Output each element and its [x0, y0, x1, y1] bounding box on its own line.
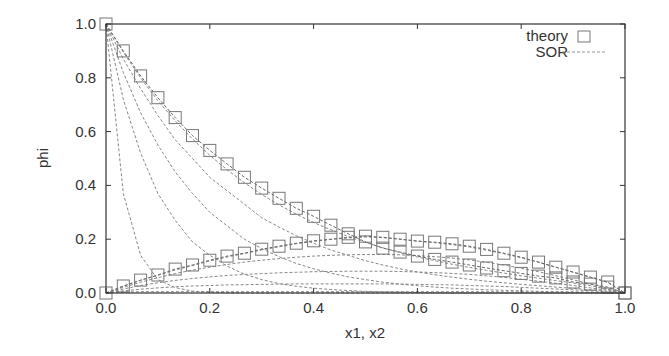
- theory-square-marker: [377, 231, 389, 243]
- y-tick-label: 0.4: [75, 176, 96, 193]
- theory-square-marker: [308, 235, 320, 247]
- theory-square-marker: [481, 243, 493, 255]
- theory-square-marker: [238, 247, 250, 259]
- y-tick-label: 1.0: [75, 15, 96, 32]
- y-tick-label: 0.6: [75, 123, 96, 140]
- theory-square-marker: [290, 202, 302, 214]
- theory-square-marker: [515, 251, 527, 263]
- x-tick-label: 0.0: [96, 299, 117, 316]
- y-tick-label: 0.8: [75, 69, 96, 86]
- sor-curve: [106, 24, 625, 293]
- theory-square-marker: [446, 238, 458, 250]
- sor-converged-curve: [106, 24, 625, 293]
- y-axis-title: phi: [34, 148, 51, 168]
- x-tick-label: 0.2: [199, 299, 220, 316]
- theory-square-marker: [515, 267, 527, 279]
- theory-square-marker: [481, 262, 493, 274]
- sor-curve: [106, 24, 625, 293]
- sor-curve: [106, 24, 625, 293]
- x-tick-label: 0.8: [511, 299, 532, 316]
- x-axis-title: x1, x2: [345, 324, 385, 341]
- sor-curve: [106, 24, 625, 293]
- theory-square-marker: [204, 144, 216, 156]
- x-tick-label: 0.4: [303, 299, 324, 316]
- sor-curve: [106, 24, 625, 293]
- theory-square-marker: [273, 240, 285, 252]
- legend: theory SOR: [526, 27, 607, 60]
- y-tick-label: 0.2: [75, 230, 96, 247]
- x-tick-label: 0.6: [407, 299, 428, 316]
- theory-square-marker: [602, 276, 614, 288]
- theory-square-marker: [152, 269, 164, 281]
- legend-square-marker-icon: [578, 31, 590, 42]
- sor-curve: [106, 255, 625, 294]
- theory-series-group: [100, 18, 631, 299]
- plot-frame: [106, 24, 625, 293]
- y-tick-label: 0.0: [75, 284, 96, 301]
- chart: 0.00.20.40.60.81.0 0.00.20.40.60.81.0 x1…: [0, 0, 669, 356]
- theory-square-marker: [238, 171, 250, 183]
- theory-square-marker: [273, 192, 285, 204]
- sor-series-group: [106, 24, 625, 293]
- theory-square-marker: [256, 182, 268, 194]
- legend-label-theory: theory: [526, 27, 568, 44]
- x-tick-label: 1.0: [615, 299, 636, 316]
- sor-converged-curve: [106, 236, 625, 293]
